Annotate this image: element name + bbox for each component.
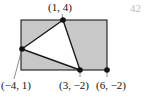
- vertex-label-bottom-right: (6, −2): [96, 80, 126, 91]
- vertex-dot-top: [60, 17, 66, 23]
- vertex-label-top: (1, 4): [48, 2, 72, 13]
- vertex-label-left: (−4, 1): [1, 80, 31, 91]
- vertex-dot-bottom-right: [104, 67, 110, 73]
- page-number: 42: [130, 3, 141, 14]
- vertex-dot-bottom: [77, 67, 83, 73]
- geometry-figure: (1, 4) (−4, 1) (3, −2) (6, −2) 42: [0, 0, 158, 97]
- vertex-dot-left: [19, 46, 25, 52]
- vertex-label-bottom: (3, −2): [59, 80, 89, 91]
